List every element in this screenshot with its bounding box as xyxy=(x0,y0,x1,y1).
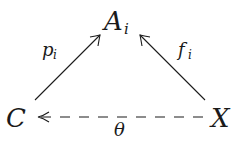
edge-f-subscript: i xyxy=(188,48,192,62)
node-x: X xyxy=(209,103,231,133)
commutative-diagram: A i C X p i f i θ xyxy=(0,0,244,148)
edge-f-line xyxy=(140,35,205,100)
edge-p-subscript: i xyxy=(53,48,57,62)
edge-theta: θ xyxy=(38,112,203,140)
node-x-label: X xyxy=(209,103,231,133)
edge-theta-label: θ xyxy=(114,119,125,140)
node-a-i: A i xyxy=(102,6,129,38)
node-c-label: C xyxy=(6,103,26,133)
node-a-label: A xyxy=(102,6,123,36)
node-c: C xyxy=(6,103,26,133)
node-a-subscript: i xyxy=(124,20,129,38)
edge-p-i: p i xyxy=(35,35,100,100)
edge-f-i: f i xyxy=(140,35,205,100)
edge-f-label: f xyxy=(176,39,188,60)
